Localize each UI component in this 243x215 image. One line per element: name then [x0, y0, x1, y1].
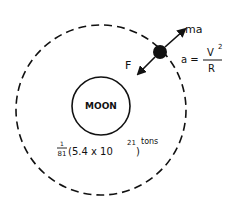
accel-numerator-exponent: 2: [218, 43, 222, 51]
mass-fraction-numerator: 1: [60, 140, 64, 147]
force-label: F: [125, 59, 131, 72]
accel-lhs: a =: [181, 54, 199, 65]
mass-fraction-denominator: 81: [58, 150, 67, 158]
mass-unit: tons: [141, 137, 158, 146]
satellite-body: [153, 45, 167, 59]
orbit-diagram: MOON 1 81 (5.4 x 10 21 ) tons ma F a = V…: [0, 0, 243, 215]
ma-label: ma: [185, 23, 202, 36]
accel-denominator: R: [208, 63, 215, 74]
mass-close-paren: ): [136, 146, 140, 157]
moon-label: MOON: [85, 101, 117, 111]
mass-value: (5.4 x 10: [68, 146, 113, 157]
ma-arrow: [165, 31, 183, 47]
mass-exponent: 21: [127, 139, 136, 147]
force-arrow: [140, 57, 155, 72]
accel-numerator: V: [207, 47, 214, 58]
